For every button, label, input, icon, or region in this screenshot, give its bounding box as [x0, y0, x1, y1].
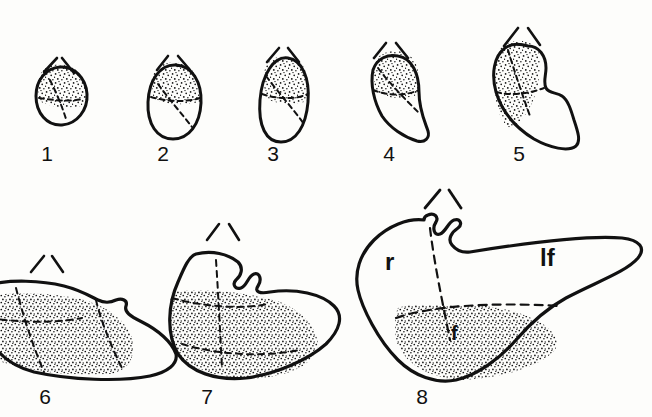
stipple-region-5: [490, 36, 545, 134]
stage-number-8: 8: [402, 385, 442, 409]
stage-number-5: 5: [499, 142, 539, 166]
outline-8: [357, 214, 642, 381]
region-label-r: r: [385, 248, 394, 276]
stage-number-6: 6: [25, 385, 65, 409]
stage-figure-8: [357, 190, 642, 388]
stage-figure-5: [490, 28, 579, 149]
stage-figure-7: [166, 224, 340, 388]
stage-number-4: 4: [369, 142, 409, 166]
stage-figure-6: [0, 256, 176, 382]
stage-figure-2: [148, 56, 206, 139]
stage-number-3: 3: [253, 142, 293, 166]
stage-figure-3: [260, 48, 316, 142]
figure-canvas: [0, 0, 652, 417]
stipple-region-7: [166, 290, 330, 388]
caret-marker-8: [425, 190, 461, 208]
stage-figure-4: [370, 43, 428, 141]
region-label-lf: lf: [540, 244, 555, 272]
caret-marker-6: [31, 256, 63, 272]
stage-figure-1: [36, 58, 90, 125]
illustration-plate: 1 2 3 4 5 6 7 8 r lf f: [0, 0, 652, 417]
stage-number-7: 7: [187, 385, 227, 409]
stage-number-2: 2: [143, 142, 183, 166]
region-label-f: f: [451, 322, 458, 345]
stage-number-1: 1: [27, 142, 67, 166]
caret-marker-7: [207, 224, 239, 240]
